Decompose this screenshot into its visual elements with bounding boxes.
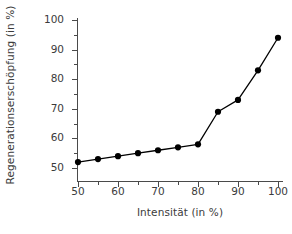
data-series-line — [0, 0, 292, 234]
data-point — [115, 153, 121, 159]
data-point — [275, 35, 281, 41]
data-point — [155, 147, 161, 153]
data-point — [215, 109, 221, 115]
data-point — [255, 67, 261, 73]
data-point — [195, 141, 201, 147]
data-point — [235, 97, 241, 103]
data-point — [75, 159, 81, 165]
data-point — [95, 156, 101, 162]
data-point — [135, 150, 141, 156]
data-point — [175, 144, 181, 150]
chart-figure: Regenerationserschöpfung (in %) Intensit… — [0, 0, 292, 234]
